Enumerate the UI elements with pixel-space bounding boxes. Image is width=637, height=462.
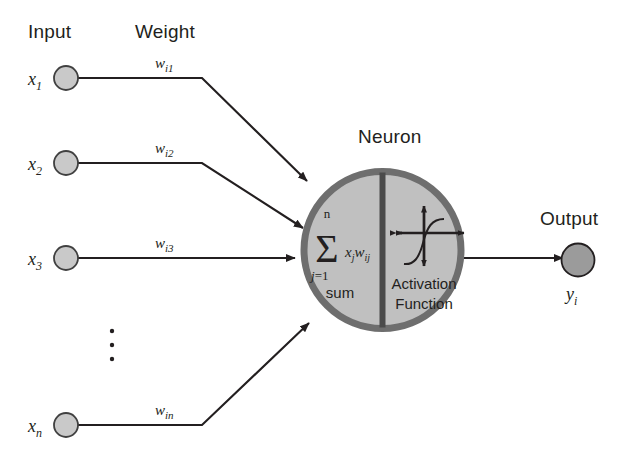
weight-labels: wi1 wi2 wi3 win	[155, 55, 174, 421]
input-ellipsis	[110, 329, 114, 361]
weight-label-wi3: wi3	[155, 235, 174, 254]
output-node-group: yi	[562, 244, 595, 309]
ellipsis-dot	[110, 343, 114, 347]
ellipsis-dot	[110, 329, 114, 333]
output-node[interactable]	[562, 244, 595, 277]
ellipsis-dot	[110, 357, 114, 361]
output-label-yi: yi	[564, 284, 577, 308]
input-label-x1: x1	[27, 69, 42, 93]
activation-caption-line1: Activation	[391, 275, 456, 292]
input-nodes	[54, 66, 78, 437]
input-node-labels: x1 x2 x3 xn	[27, 69, 42, 440]
diagram-canvas: Input Weight Neuron Output n Σ j=1 xjwij	[0, 0, 637, 462]
weight-label-wi1: wi1	[155, 55, 174, 74]
input-label-xn: xn	[27, 416, 42, 440]
input-label-x2: x2	[27, 154, 42, 178]
connection-xn	[78, 323, 309, 425]
input-node-x3[interactable]	[54, 246, 78, 270]
header-output: Output	[540, 208, 599, 229]
weight-label-win: win	[155, 402, 174, 421]
input-label-x3: x3	[27, 249, 42, 273]
sigma-icon: Σ	[315, 226, 338, 271]
header-input: Input	[28, 21, 72, 42]
activation-caption-line2: Function	[395, 295, 453, 312]
sum-caption: sum	[326, 284, 354, 301]
sum-upper-limit: n	[324, 206, 331, 221]
connection-x2	[78, 163, 303, 228]
header-neuron: Neuron	[358, 126, 422, 147]
header-weight: Weight	[135, 21, 196, 42]
connection-x1	[78, 78, 307, 181]
weight-label-wi2: wi2	[155, 140, 174, 159]
input-node-x2[interactable]	[54, 151, 78, 175]
input-node-x1[interactable]	[54, 66, 78, 90]
neuron-diagram: Input Weight Neuron Output n Σ j=1 xjwij	[0, 0, 637, 462]
input-node-xn[interactable]	[54, 413, 78, 437]
sum-lower-limit: j=1	[309, 268, 328, 283]
